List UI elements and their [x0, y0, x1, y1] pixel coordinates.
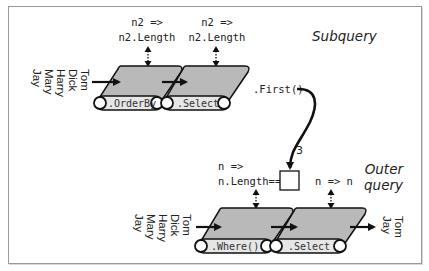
svg-text:Jay: Jay	[31, 69, 43, 87]
orderby-lambda-connector-icon	[145, 46, 152, 67]
select-label: .Select	[177, 98, 219, 109]
svg-text:Tom: Tom	[79, 69, 91, 91]
where-lambda-line2: n.Length==	[218, 175, 281, 187]
svg-text:Jay: Jay	[133, 214, 145, 232]
select-lambda-connector-icon	[213, 46, 220, 67]
svg-text:Harry: Harry	[157, 214, 169, 242]
orderby-lambda-line2: n2.Length	[119, 31, 176, 43]
outer-query-title-line2: query	[364, 177, 404, 193]
select-outer-label: .Select	[288, 241, 330, 252]
select-outer-lambda: n => n	[315, 175, 353, 187]
svg-text:Tom: Tom	[181, 214, 193, 236]
svg-text:Mary: Mary	[43, 69, 55, 95]
where-lambda-line1: n =>	[218, 160, 243, 172]
subquery-placeholder-box	[280, 171, 299, 190]
where-lambda-connector-icon	[253, 189, 260, 209]
select-lambda-line1: n2 =>	[201, 16, 233, 28]
select-outer-lambda-connector-icon	[328, 189, 335, 209]
outer-input-names: Tom Dick Harry Mary Jay	[133, 214, 193, 242]
orderby-label: .OrderBy	[108, 98, 156, 109]
first-operator-label: .First()	[253, 83, 304, 95]
subquery-section: Subquery n2 => n2.Length n2 => n2.Length…	[31, 16, 378, 110]
subquery-input-names: Tom Dick Harry Mary Jay	[31, 69, 91, 97]
outer-output-names: Tom Jay	[381, 216, 405, 238]
svg-text:Jay: Jay	[381, 216, 393, 234]
where-label: .Where()	[211, 241, 259, 252]
outer-query-title-line1: Outer	[365, 161, 405, 177]
linq-subquery-diagram: Subquery n2 => n2.Length n2 => n2.Length…	[0, 0, 429, 271]
svg-text:Dick: Dick	[67, 69, 79, 92]
orderby-lambda-line1: n2 =>	[131, 16, 163, 28]
select-lambda-line2: n2.Length	[189, 31, 246, 43]
subquery-title: Subquery	[312, 28, 378, 44]
svg-text:Dick: Dick	[169, 214, 181, 237]
subquery-result-value: 3	[296, 144, 303, 157]
svg-text:Harry: Harry	[55, 69, 67, 97]
outer-query-section: Outer query n => n.Length== n => n .Wher…	[133, 160, 405, 253]
svg-text:Tom: Tom	[393, 216, 405, 238]
svg-text:Mary: Mary	[145, 214, 157, 240]
